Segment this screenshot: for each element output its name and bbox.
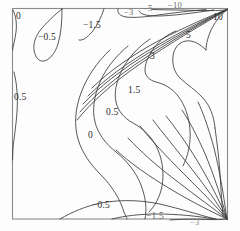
contour-label-neg10-top: −10 <box>168 1 182 10</box>
contour-level-5-upperright <box>173 41 215 128</box>
contour-label-neg3-bottom: −3 <box>190 218 199 227</box>
contour-label-3: 3 <box>150 52 155 62</box>
contour-canvas <box>0 0 240 231</box>
contour-label-1p5: 1.5 <box>128 86 140 96</box>
contour-label-0p5-mid: 0.5 <box>106 108 118 118</box>
contour-fan-line-3 <box>83 10 227 105</box>
contour-label-0p5-leftedge: 0.5 <box>14 93 26 103</box>
contour-plot: 0 −0.5 −1.5 −3 −5 −10 10 5 3 1.5 0.5 0 0… <box>0 0 240 231</box>
contour-label-0-topleft: 0 <box>16 12 21 22</box>
contour-fan-line-b7 <box>198 102 227 220</box>
contour-label-neg1p5-top: −1.5 <box>83 21 101 31</box>
contour-label-neg5-top: −5 <box>143 4 152 13</box>
contour-label-0-mid: 0 <box>88 131 93 141</box>
contour-label-5: 5 <box>186 31 191 41</box>
contour-label-neg0p5-bottom: −0.5 <box>92 201 110 211</box>
contour-label-10-topright: 10 <box>213 13 223 23</box>
contour-level--10-top <box>152 10 226 11</box>
contour-label-neg3-top: −3 <box>124 8 133 17</box>
contour-level-0.5-leftedge <box>13 72 18 160</box>
contour-fan-line-b2 <box>128 138 227 219</box>
contour-label-neg0p5-topleft: −0.5 <box>38 33 56 43</box>
contour-label-neg1p5-bottom: −1.5 <box>146 212 164 222</box>
